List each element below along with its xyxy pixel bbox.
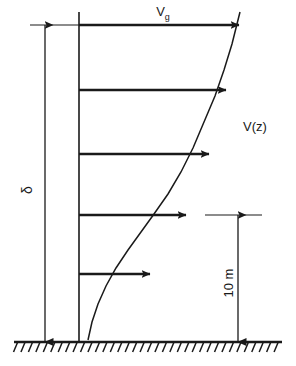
ground-hatch-tick bbox=[51, 342, 55, 352]
ground-hatch-tick bbox=[140, 342, 144, 352]
ground-hatch-tick bbox=[88, 342, 92, 352]
ground-hatch-tick bbox=[133, 342, 137, 352]
ground-hatch-tick bbox=[267, 342, 271, 352]
ground-hatch-tick bbox=[237, 342, 241, 352]
ground-hatch-tick bbox=[81, 342, 85, 352]
ground-hatch-tick bbox=[222, 342, 226, 352]
velocity-profile-curve bbox=[88, 12, 240, 340]
boundary-layer-depth-dimension bbox=[30, 25, 79, 342]
ground-hatch-tick bbox=[118, 342, 122, 352]
ground-hatch-tick bbox=[155, 342, 159, 352]
ground-hatch-tick bbox=[229, 342, 233, 352]
ground-hatch-tick bbox=[125, 342, 129, 352]
ground-hatch-tick bbox=[207, 342, 211, 352]
ground-hatch-icon bbox=[14, 342, 279, 352]
wind-velocity-profile-diagram: Vg V(z) δ 10 m bbox=[0, 0, 296, 366]
ground-hatch-tick bbox=[36, 342, 40, 352]
ground-hatch-tick bbox=[244, 342, 248, 352]
ground-hatch-tick bbox=[215, 342, 219, 352]
ground-hatch-tick bbox=[95, 342, 99, 352]
reference-height-label: 10 m bbox=[221, 269, 236, 298]
ground-hatch-tick bbox=[58, 342, 62, 352]
ground-hatch-tick bbox=[43, 342, 47, 352]
ground-hatch-tick bbox=[110, 342, 114, 352]
gradient-velocity-symbol: V bbox=[156, 4, 165, 19]
ground-hatch-tick bbox=[259, 342, 263, 352]
ground-hatch-tick bbox=[21, 342, 25, 352]
ground-hatch-tick bbox=[148, 342, 152, 352]
ground-hatch-tick bbox=[103, 342, 107, 352]
ground-hatch-tick bbox=[192, 342, 196, 352]
diagram-canvas: Vg V(z) δ 10 m bbox=[0, 0, 296, 366]
ground-hatch-tick bbox=[162, 342, 166, 352]
ground-hatch-tick bbox=[28, 342, 32, 352]
gradient-velocity-label: Vg bbox=[156, 4, 170, 22]
boundary-layer-depth-label: δ bbox=[19, 186, 35, 194]
ground-hatch-tick bbox=[170, 342, 174, 352]
velocity-arrow-group bbox=[79, 25, 239, 274]
ground-hatch-tick bbox=[185, 342, 189, 352]
ground-hatch-tick bbox=[66, 342, 70, 352]
ground-hatch-tick bbox=[14, 342, 18, 352]
velocity-profile-label: V(z) bbox=[243, 119, 267, 134]
ground-hatch-tick bbox=[252, 342, 256, 352]
ground-group bbox=[14, 342, 282, 352]
ground-hatch-tick bbox=[73, 342, 77, 352]
ground-hatch-tick bbox=[274, 342, 278, 352]
ground-hatch-tick bbox=[200, 342, 204, 352]
ground-hatch-tick bbox=[177, 342, 181, 352]
gradient-velocity-subscript: g bbox=[165, 12, 170, 22]
